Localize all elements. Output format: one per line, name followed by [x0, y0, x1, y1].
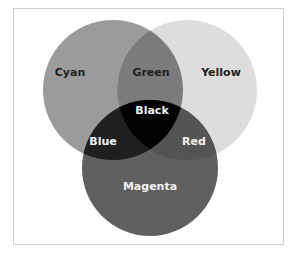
label-red: Red: [182, 135, 206, 148]
label-yellow: Yellow: [200, 66, 241, 79]
label-magenta: Magenta: [123, 180, 177, 193]
venn-diagram: Cyan Green Yellow Black Blue Red Magenta: [0, 0, 295, 254]
label-black: Black: [135, 104, 169, 117]
label-green: Green: [132, 66, 169, 79]
label-blue: Blue: [89, 135, 116, 148]
label-cyan: Cyan: [55, 66, 86, 79]
